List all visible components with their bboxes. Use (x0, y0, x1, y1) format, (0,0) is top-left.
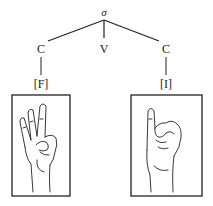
vowel-node: V (100, 42, 109, 56)
root-node-label: σ (101, 6, 107, 18)
handshape-i-illustration (131, 95, 202, 196)
feature-left: [F] (34, 77, 49, 91)
hand-icon-f (20, 104, 57, 192)
image-frame-left (12, 95, 70, 196)
image-frame-right (131, 95, 202, 196)
branch-right (104, 20, 159, 41)
branch-left (48, 20, 104, 41)
consonant-node-right: C (162, 42, 170, 56)
consonant-node-left: C (37, 42, 45, 56)
feature-right: [I] (160, 77, 172, 91)
hand-icon-i (147, 109, 181, 193)
handshape-f-illustration (12, 95, 70, 196)
syllable-tree-diagram: σ C [F] V C [I] (0, 0, 213, 206)
